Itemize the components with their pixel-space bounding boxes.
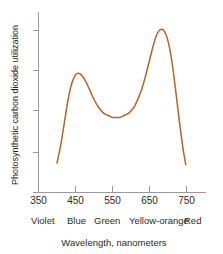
band-label-yellow-orange: Yellow-orange (129, 215, 189, 226)
color-band-labels: Violet Blue Green Yellow-orange Red (31, 215, 201, 226)
x-tick-label-450: 450 (67, 195, 84, 206)
x-tick-label-350: 350 (30, 195, 47, 206)
band-label-red: Red (184, 215, 201, 226)
band-label-green: Green (94, 215, 120, 226)
x-tick-label-650: 650 (141, 195, 158, 206)
y-axis-label-text: Photosynthetic carbon dioxide utilizatio… (10, 25, 20, 185)
y-axis-ticks (33, 31, 39, 153)
x-tick-label-750: 750 (178, 195, 195, 206)
photosynthesis-action-spectrum-figure: Photosynthetic carbon dioxide utilizatio… (0, 0, 223, 254)
action-spectrum-curve (57, 29, 186, 165)
chart-canvas: Photosynthetic carbon dioxide utilizatio… (0, 0, 223, 254)
band-label-violet: Violet (31, 215, 55, 226)
band-label-blue: Blue (67, 215, 86, 226)
x-axis-tick-labels: 350 450 550 650 750 (30, 195, 195, 206)
x-axis-ticks (39, 186, 187, 193)
x-axis-title: Wavelength, nanometers (61, 237, 167, 248)
x-tick-label-550: 550 (104, 195, 121, 206)
y-axis-label: Photosynthetic carbon dioxide utilizatio… (10, 25, 20, 185)
